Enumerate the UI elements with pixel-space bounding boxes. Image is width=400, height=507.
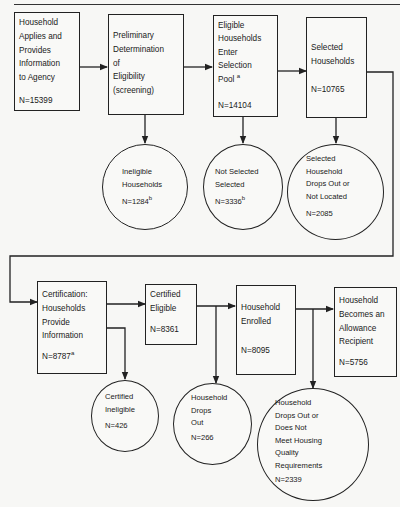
- circle-household-drops-out: Household Drops Out N=266: [173, 383, 252, 465]
- box-label: Household Becomes an Allowance Recipient: [339, 294, 392, 349]
- circle-certified-ineligible: Certified Ineligible N=426: [91, 380, 159, 452]
- circle-housing-quality-dropout: Household Drops Out or Does Not Meet Hou…: [257, 388, 369, 501]
- box-eligible-selection-pool: Eligible Households Enter Selection Pool…: [213, 15, 278, 117]
- circle-label: Household Drops Out or Does Not Meet Hou…: [275, 397, 322, 472]
- count-label: N=10765: [311, 83, 344, 97]
- count-label: N=2085: [306, 208, 333, 221]
- count-label: N=266: [191, 432, 214, 445]
- footnote-a: a: [237, 73, 240, 79]
- circle-label: Selected Household Drops Out or Not Loca…: [306, 153, 349, 203]
- box-preliminary-determination: Preliminary Determination of Eligibility…: [108, 14, 184, 115]
- circle-not-selected: Not Selected Selected N=3336b: [203, 144, 283, 230]
- box-selected-households: Selected Households N=10765: [306, 17, 367, 118]
- box-label: Household Enrolled: [241, 301, 291, 329]
- count-label: N=8095: [241, 344, 270, 358]
- box-label: Eligible Households Enter Selection Pool…: [218, 19, 273, 86]
- count-label: N=14104: [218, 99, 251, 112]
- count-label: N=8787a: [42, 350, 74, 364]
- box-certification: Certification: Households Provide Inform…: [37, 281, 107, 374]
- count-label: N=5756: [339, 356, 368, 370]
- box-label: Household Applies and Provides Informati…: [19, 16, 75, 85]
- count-label: N=2339: [275, 474, 302, 487]
- count-label: N=15399: [19, 94, 52, 108]
- circle-label: Ineligible Households: [122, 166, 162, 191]
- box-certified-eligible: Certified Eligible N=8361: [145, 284, 197, 345]
- circle-label: Certified Ineligible: [105, 391, 135, 416]
- count-label: N=3336b: [215, 196, 245, 209]
- box-label: Selected Households: [311, 41, 362, 69]
- box-label: Certified Eligible: [150, 288, 192, 316]
- box-household-applies: Household Applies and Provides Informati…: [14, 12, 80, 111]
- box-label: Preliminary Determination of Eligibility…: [113, 29, 179, 98]
- box-household-enrolled: Household Enrolled N=8095: [236, 285, 296, 375]
- count-label: N=426: [105, 420, 128, 433]
- circle-label: Household Drops Out: [191, 392, 227, 430]
- circle-ineligible-households: Ineligible Households N=1284b: [102, 144, 188, 230]
- box-label: Certification: Households Provide Inform…: [42, 288, 102, 343]
- count-label: N=8361: [150, 323, 179, 337]
- count-label: N=1284b: [122, 196, 152, 209]
- circle-selected-dropout-not-located: Selected Household Drops Out or Not Loca…: [287, 144, 384, 240]
- box-allowance-recipient: Household Becomes an Allowance Recipient…: [334, 287, 397, 377]
- circle-label: Not Selected Selected: [215, 166, 258, 191]
